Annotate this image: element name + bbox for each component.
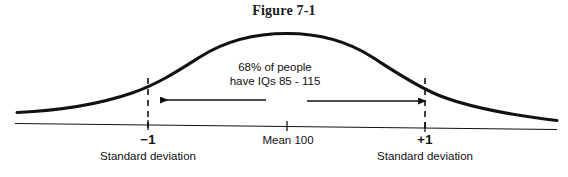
plus-one-sd-value: +1: [385, 132, 465, 147]
mean-label: Mean 100: [238, 134, 338, 146]
figure-container: Figure 7-1 68% of people have IQs: [0, 0, 568, 177]
minus-one-sd-value: −1: [108, 132, 188, 147]
inner-note-line-1: 68% of people: [190, 60, 360, 74]
minus-one-sd-label: Standard deviation: [78, 150, 218, 162]
inner-note: 68% of people have IQs 85 - 115: [190, 60, 360, 88]
inner-note-line-2: have IQs 85 - 115: [190, 74, 360, 88]
plus-one-sd-label: Standard deviation: [355, 150, 495, 162]
baseline-axis: [15, 124, 557, 130]
